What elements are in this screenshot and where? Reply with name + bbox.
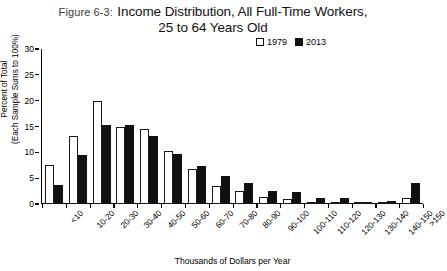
- figure-title-line2: 25 to 64 Years Old: [0, 20, 426, 35]
- y-axis-title: Percent of Total (Each Sample Sums to 10…: [0, 24, 21, 154]
- bar-group: [185, 49, 209, 204]
- bar-1979-50-60: [164, 151, 173, 204]
- bar-1979-140-150: [378, 202, 387, 204]
- y-tick-mark: [35, 178, 39, 179]
- bar-2013-100-110: [292, 192, 301, 204]
- bar-2013-130-140: [363, 202, 372, 204]
- bar-group: [328, 49, 352, 204]
- y-tick-label-20: 20: [25, 96, 34, 106]
- y-tick-mark: [35, 100, 39, 101]
- x-tick-label-80-90: 80-90: [261, 208, 283, 230]
- y-tick-mark: [35, 152, 39, 153]
- y-tick-label-10: 10: [25, 147, 34, 157]
- plot-area: 051015202530 Percent of Total (Each Samp…: [0, 44, 426, 271]
- bar-group: [233, 49, 257, 204]
- bar-group: [280, 49, 304, 204]
- x-tick-label-40-50: 40-50: [165, 208, 187, 230]
- x-tick-label-110-120: 110-120: [335, 208, 363, 236]
- x-tick-label-130-140: 130-140: [382, 208, 411, 237]
- bar-1979-60-70: [188, 169, 197, 204]
- bar-1979-130-140: [354, 202, 363, 204]
- figure-number: Figure 6-3:: [59, 6, 113, 18]
- y-axis-title-line1: Percent of Total: [0, 24, 10, 154]
- y-axis-title-line2: (Each Sample Sums to 100%): [10, 24, 21, 154]
- x-axis-tick-labels: <1010-2020-3030-4040-5050-6060-7070-8080…: [42, 208, 423, 252]
- bar-1979-100-110: [283, 199, 292, 204]
- bar-1979-120-130: [331, 202, 340, 204]
- y-tick-label-25: 25: [25, 70, 34, 80]
- figure-title-line1: Figure 6-3: Income Distribution, All Ful…: [0, 2, 426, 20]
- bar-2013-20-30: [102, 125, 111, 204]
- x-axis-title: Thousands of Dollars per Year: [42, 256, 423, 266]
- bar-1979-70-80: [212, 186, 221, 204]
- bar-1979-30-40: [116, 127, 125, 205]
- y-tick-label-5: 5: [29, 173, 34, 183]
- bar-2013-40-50: [149, 136, 158, 204]
- bar-group: [209, 49, 233, 204]
- figure-title-main: Income Distribution, All Full-Time Worke…: [117, 4, 367, 19]
- bar-1979-90-100: [259, 197, 268, 204]
- y-tick-mark: [35, 126, 39, 127]
- x-tick-label-60-70: 60-70: [213, 208, 235, 230]
- x-tick-label-120-130: 120-130: [359, 208, 388, 237]
- y-tick-label-15: 15: [25, 122, 34, 132]
- bar-1979-<10: [45, 165, 54, 204]
- bar-2013-70-80: [221, 176, 230, 204]
- y-tick-mark: [35, 48, 39, 49]
- figure-title: Figure 6-3: Income Distribution, All Ful…: [0, 2, 426, 35]
- bar-1979-10-20: [69, 136, 78, 204]
- x-tick-label-70-80: 70-80: [237, 208, 259, 230]
- bar-2013-140-150: [387, 201, 396, 204]
- bar-1979->150: [402, 198, 411, 204]
- x-tick-label-30-40: 30-40: [142, 208, 164, 230]
- bar-1979-80-90: [235, 191, 244, 204]
- bar-2013-80-90: [244, 183, 253, 204]
- y-tick-mark: [35, 74, 39, 75]
- bar-group: [256, 49, 280, 204]
- bar-2013-60-70: [197, 166, 206, 204]
- y-tick-label-30: 30: [25, 44, 34, 54]
- x-tick-label-10-20: 10-20: [94, 208, 116, 230]
- bar-group: [352, 49, 376, 204]
- bar-group: [161, 49, 185, 204]
- bar-2013-120-130: [340, 198, 349, 204]
- bar-group: [304, 49, 328, 204]
- bar-groups: [42, 49, 423, 204]
- bar-group: [90, 49, 114, 204]
- x-tick-label-<10: <10: [68, 208, 85, 225]
- bar-2013-<10: [54, 185, 63, 204]
- bar-2013-30-40: [125, 125, 134, 204]
- bar-2013-10-20: [78, 155, 87, 204]
- bar-group: [375, 49, 399, 204]
- x-tick-mark: [423, 204, 424, 208]
- x-tick-label-20-30: 20-30: [118, 208, 140, 230]
- bar-1979-20-30: [93, 101, 102, 204]
- bar-group: [137, 49, 161, 204]
- bar-1979-110-120: [307, 202, 316, 204]
- bar-2013->150: [411, 183, 420, 204]
- bar-group: [66, 49, 90, 204]
- x-tick-label-100-110: 100-110: [311, 208, 339, 236]
- bar-group: [399, 49, 423, 204]
- bar-2013-110-120: [316, 198, 325, 204]
- bar-1979-40-50: [140, 129, 149, 204]
- bar-2013-90-100: [268, 191, 277, 204]
- y-tick-label-0: 0: [29, 199, 34, 209]
- y-tick-mark: [35, 203, 39, 204]
- bar-group: [42, 49, 66, 204]
- x-tick-label-90-100: 90-100: [286, 208, 312, 234]
- bar-2013-50-60: [173, 154, 182, 204]
- x-tick-label-50-60: 50-60: [189, 208, 211, 230]
- bar-group: [113, 49, 137, 204]
